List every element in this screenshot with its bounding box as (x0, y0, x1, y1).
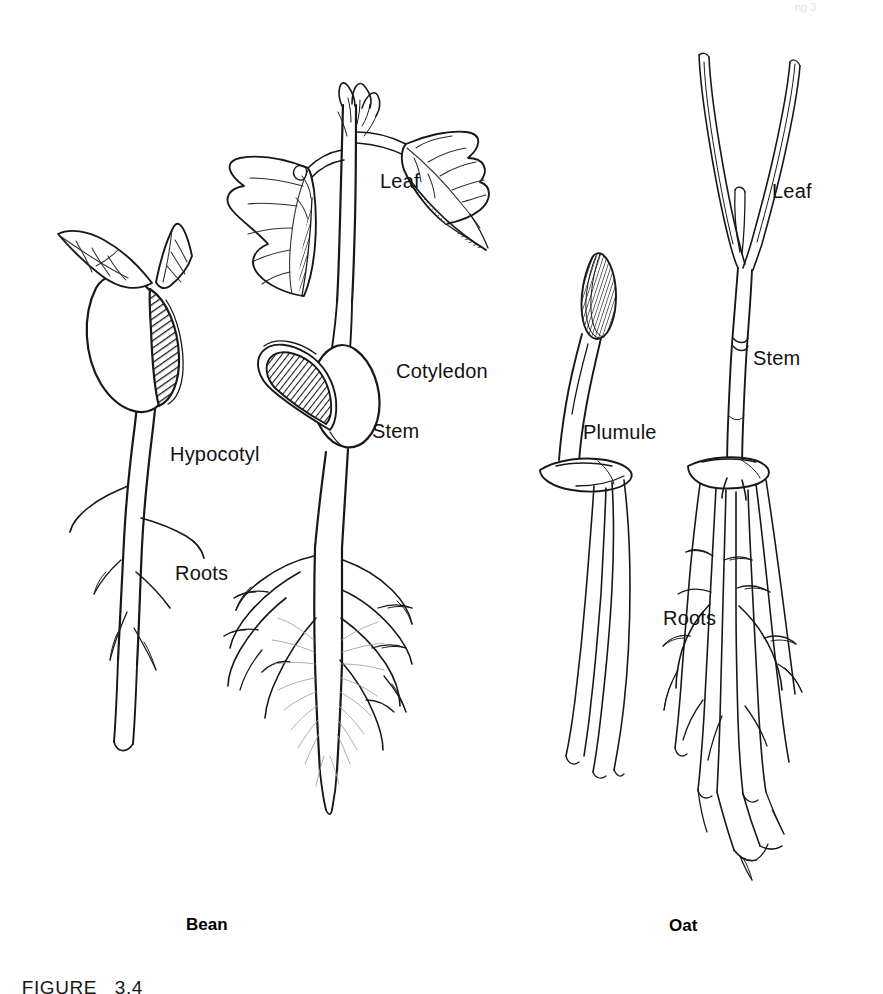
seedling-comparison-figure (0, 0, 883, 994)
label-oat-roots: Roots (663, 607, 716, 630)
label-bean-hypocotyl: Hypocotyl (170, 443, 260, 466)
figure-caption-number: 3.4 (115, 977, 143, 994)
label-bean-cotyledon: Cotyledon (396, 360, 488, 383)
label-oat-leaf: Leaf (772, 180, 812, 203)
specimen-name-oat: Oat (669, 916, 697, 936)
label-bean-stem: Stem (372, 420, 419, 443)
label-oat-stem: Stem (753, 347, 800, 370)
figure-caption: FIGURE 3.4 (10, 955, 143, 994)
figure-caption-prefix: FIGURE (22, 977, 97, 994)
specimen-name-bean: Bean (186, 915, 228, 935)
label-bean-leaf: Leaf (380, 170, 420, 193)
label-bean-roots: Roots (175, 562, 228, 585)
label-oat-plumule: Plumule (583, 421, 657, 444)
page-header-fragment: ng 3 (795, 1, 816, 13)
